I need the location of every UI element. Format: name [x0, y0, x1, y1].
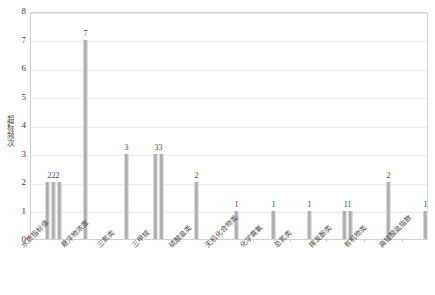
- bar-value-label: 1: [296, 201, 324, 209]
- gridline: [31, 184, 427, 185]
- bar: [57, 182, 62, 239]
- y-axis-tick-label: 4: [8, 121, 26, 130]
- bar: [307, 211, 312, 240]
- bar: [159, 154, 164, 240]
- gridline: [31, 212, 427, 213]
- y-axis-tick-label: 3: [8, 150, 26, 159]
- gridline: [31, 41, 427, 42]
- bar: [271, 211, 276, 240]
- x-axis-tick: [402, 239, 403, 242]
- bar-chart: 超标频次 012345678 222733321111121 水质指标值悬浮物浓…: [0, 0, 435, 295]
- bar-value-label: 1: [223, 201, 251, 209]
- plot-area: 222733321111121: [30, 12, 428, 240]
- bar-value-label: 1: [260, 201, 288, 209]
- y-axis-tick-label: 1: [8, 207, 26, 216]
- bar-value-label: 222: [40, 172, 68, 180]
- bar-value-label: 1: [412, 201, 435, 209]
- gridline: [31, 98, 427, 99]
- y-axis-tick-label: 7: [8, 36, 26, 45]
- gridline: [31, 13, 427, 14]
- bar: [342, 211, 347, 240]
- bar-value-label: 3: [113, 144, 141, 152]
- bar-value-label: 11: [334, 201, 362, 209]
- gridline: [31, 155, 427, 156]
- x-axis-tick: [326, 239, 327, 242]
- bar-value-label: 2: [183, 172, 211, 180]
- bar: [423, 211, 428, 240]
- bar: [83, 40, 88, 240]
- bar-value-label: 7: [72, 30, 100, 38]
- bar-value-label: 2: [375, 172, 403, 180]
- y-axis-tick-label: 2: [8, 178, 26, 187]
- bar: [194, 182, 199, 239]
- gridline: [31, 127, 427, 128]
- bar-value-label: 33: [145, 144, 173, 152]
- y-axis-tick-label: 6: [8, 64, 26, 73]
- y-axis-tick-label: 5: [8, 93, 26, 102]
- x-axis-tick: [364, 239, 365, 242]
- gridline: [31, 70, 427, 71]
- bar: [153, 154, 158, 240]
- bar: [124, 154, 129, 240]
- y-axis-tick-label: 8: [8, 7, 26, 16]
- x-axis-tick: [290, 239, 291, 242]
- bar: [51, 182, 56, 239]
- bar: [45, 182, 50, 239]
